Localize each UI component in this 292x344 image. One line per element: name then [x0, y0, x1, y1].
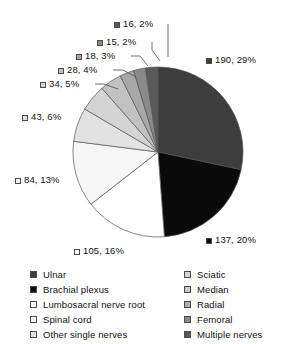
data-label-text-multiple-nerves: 16, 2% — [123, 18, 153, 29]
data-label-swatch-sciatic — [40, 82, 46, 88]
legend-swatch-spinal-cord — [30, 316, 37, 323]
legend-item-radial[interactable]: Radial — [184, 297, 292, 312]
data-label-radial: 18, 3% — [76, 50, 115, 61]
data-label-median: 28, 4% — [58, 64, 97, 75]
legend-label-ulnar: Ulnar — [43, 269, 66, 280]
data-label-swatch-median — [58, 68, 64, 74]
chart-legend: UlnarBrachial plexusLumbosacral nerve ro… — [0, 267, 292, 344]
legend-label-median: Median — [197, 284, 229, 295]
data-label-text-femoral: 15, 2% — [106, 36, 136, 47]
legend-item-other-single-nerves[interactable]: Other single nerves — [30, 327, 152, 342]
data-label-lumbosacral-nerve-root: 105, 16% — [74, 245, 124, 256]
data-label-sciatic: 34, 5% — [40, 78, 79, 89]
leader-line-femoral — [152, 42, 160, 61]
legend-swatch-radial — [184, 301, 191, 308]
pie-slice-group — [73, 67, 243, 237]
data-label-text-other-single-nerves: 43, 6% — [31, 111, 61, 122]
legend-label-femoral: Femoral — [197, 314, 233, 325]
legend-item-lumbosacral-nerve-root[interactable]: Lumbosacral nerve root — [30, 297, 152, 312]
legend-item-median[interactable]: Median — [184, 282, 292, 297]
legend-label-multiple-nerves: Multiple nerves — [197, 329, 262, 340]
data-label-text-brachial-plexus: 137, 20% — [215, 234, 256, 245]
legend-swatch-brachial-plexus — [30, 286, 37, 293]
legend-swatch-multiple-nerves — [184, 331, 191, 338]
data-label-swatch-brachial-plexus — [206, 238, 212, 244]
data-label-text-ulnar: 190, 29% — [215, 54, 256, 65]
data-label-femoral: 15, 2% — [97, 36, 136, 47]
leader-line-radial — [131, 56, 148, 66]
data-label-text-spinal-cord: 84, 13% — [24, 174, 60, 185]
legend-label-lumbosacral-nerve-root: Lumbosacral nerve root — [43, 299, 145, 310]
legend-swatch-median — [184, 286, 191, 293]
legend-label-spinal-cord: Spinal cord — [43, 314, 92, 325]
data-label-swatch-other-single-nerves — [22, 115, 28, 121]
legend-column-left: UlnarBrachial plexusLumbosacral nerve ro… — [0, 267, 152, 344]
legend-item-femoral[interactable]: Femoral — [184, 312, 292, 327]
data-label-text-radial: 18, 3% — [85, 50, 115, 61]
data-label-text-median: 28, 4% — [67, 64, 97, 75]
data-label-swatch-multiple-nerves — [114, 22, 120, 28]
legend-item-multiple-nerves[interactable]: Multiple nerves — [184, 327, 292, 342]
legend-swatch-other-single-nerves — [30, 331, 37, 338]
legend-item-sciatic[interactable]: Sciatic — [184, 267, 292, 282]
legend-label-radial: Radial — [197, 299, 225, 310]
legend-item-spinal-cord[interactable]: Spinal cord — [30, 312, 152, 327]
data-label-swatch-lumbosacral-nerve-root — [74, 249, 80, 255]
data-label-swatch-spinal-cord — [15, 178, 21, 184]
data-label-text-sciatic: 34, 5% — [49, 78, 79, 89]
legend-swatch-sciatic — [184, 271, 191, 278]
legend-swatch-femoral — [184, 316, 191, 323]
data-label-other-single-nerves: 43, 6% — [22, 111, 61, 122]
legend-swatch-ulnar — [30, 271, 37, 278]
legend-swatch-lumbosacral-nerve-root — [30, 301, 37, 308]
data-label-ulnar: 190, 29% — [206, 54, 256, 65]
legend-item-ulnar[interactable]: Ulnar — [30, 267, 152, 282]
legend-column-right: SciaticMedianRadialFemoralMultiple nerve… — [152, 267, 292, 344]
data-label-multiple-nerves: 16, 2% — [114, 18, 153, 29]
legend-item-brachial-plexus[interactable]: Brachial plexus — [30, 282, 152, 297]
legend-label-brachial-plexus: Brachial plexus — [43, 284, 109, 295]
data-label-brachial-plexus: 137, 20% — [206, 234, 256, 245]
data-label-swatch-radial — [76, 54, 82, 60]
data-label-swatch-ulnar — [206, 58, 212, 64]
pie-chart-figure: 190, 29% 137, 20% 105, 16% 84, 13% 43, 6… — [0, 0, 292, 344]
data-label-spinal-cord: 84, 13% — [15, 174, 60, 185]
data-label-text-lumbosacral-nerve-root: 105, 16% — [83, 245, 124, 256]
legend-label-other-single-nerves: Other single nerves — [43, 329, 127, 340]
data-label-swatch-femoral — [97, 40, 103, 46]
legend-label-sciatic: Sciatic — [197, 269, 226, 280]
